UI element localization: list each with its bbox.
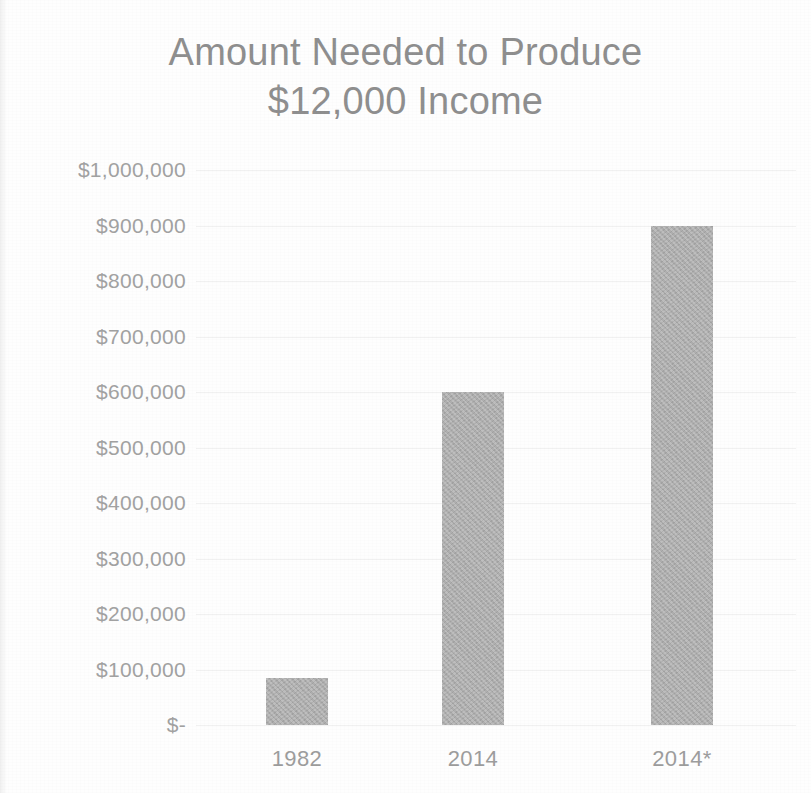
- x-axis-tick-label: 1982: [217, 746, 377, 772]
- x-axis-tick-label: 2014*: [602, 746, 762, 772]
- x-axis-tick-label: 2014: [393, 746, 553, 772]
- y-axis-tick-label: $800,000: [0, 270, 186, 291]
- plot-area: [196, 165, 796, 730]
- y-axis-tick-label: $100,000: [0, 659, 186, 680]
- bar: [651, 226, 713, 726]
- y-axis-tick-label: $300,000: [0, 548, 186, 569]
- bar: [442, 392, 504, 725]
- y-axis-tick-label: $-: [0, 714, 186, 735]
- y-axis-tick-label: $400,000: [0, 492, 186, 513]
- y-axis-tick-label: $1,000,000: [0, 159, 186, 180]
- y-axis: $1,000,000$900,000$800,000$700,000$600,0…: [0, 0, 186, 793]
- y-axis-tick-label: $600,000: [0, 381, 186, 402]
- y-axis-tick-label: $500,000: [0, 437, 186, 458]
- y-axis-tick-label: $200,000: [0, 603, 186, 624]
- y-axis-tick-label: $900,000: [0, 215, 186, 236]
- x-axis: 198220142014*: [196, 746, 796, 782]
- y-axis-tick-label: $700,000: [0, 326, 186, 347]
- bar-series: [196, 165, 796, 730]
- bar: [266, 678, 328, 725]
- bar-chart: Amount Needed to Produce $12,000 Income …: [0, 0, 811, 793]
